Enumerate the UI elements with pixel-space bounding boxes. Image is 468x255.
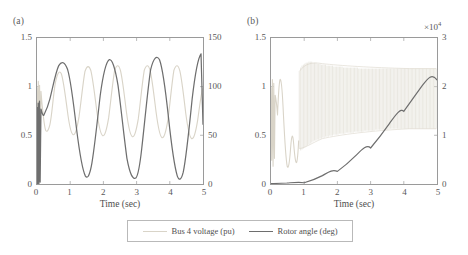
panel-b-ytick-left-0.5: 0.5 [234,131,266,140]
panel-b-xtick-2: 2 [325,188,349,197]
panel-a-ytick-right-150: 150 [208,33,236,42]
panel-a-ytick-left-1.5: 1.5 [0,33,32,42]
exponent-base: ×10 [424,22,438,32]
legend-label-bus-voltage: Bus 4 voltage (pu) [172,227,235,236]
legend-line-rotor-angle [249,231,273,232]
panel-b-ytick-left-1: 1 [234,82,266,91]
panel-b-curves [271,38,437,184]
panel-a-xtick-0: 0 [24,188,48,197]
panel-b-xtick-5: 5 [426,188,450,197]
legend-label-rotor-angle: Rotor angle (deg) [278,227,338,236]
panel-a-xtick-3: 3 [125,188,149,197]
panel-b-ytick-right-1: 1 [442,131,468,140]
panel-b-right-axis-exponent: ×104 [424,20,441,32]
panel-a-ytick-right-100: 100 [208,82,236,91]
panel-a-curves [37,38,203,184]
legend-line-bus-voltage [143,231,167,232]
panel-a-tag: (a) [13,16,24,26]
panel-b-xtick-4: 4 [392,188,416,197]
panel-a-xtick-1: 1 [58,188,82,197]
figure-root: (a) 1.5 1 0.5 0 150 100 50 0 [0,0,468,255]
panel-b: (b) ×104 1.5 1 0.5 0 3 2 1 0 [234,0,468,210]
panel-b-tag: (b) [247,16,259,26]
panel-a-xlabel: Time (sec) [60,199,180,209]
panel-b-xtick-1: 1 [292,188,316,197]
panel-b-plot-area [270,37,438,185]
legend-entry-rotor-angle: Rotor angle (deg) [249,227,338,236]
legend: Bus 4 voltage (pu) Rotor angle (deg) [127,220,353,242]
panel-a-xtick-2: 2 [91,188,115,197]
panel-a-ytick-right-50: 50 [208,131,236,140]
panel-a-xtick-4: 4 [158,188,182,197]
panel-a: (a) 1.5 1 0.5 0 150 100 50 0 [0,0,234,210]
panel-b-xtick-0: 0 [258,188,282,197]
panel-a-ytick-left-0.5: 0.5 [0,131,32,140]
panel-b-ytick-left-1.5: 1.5 [234,33,266,42]
panel-b-xlabel: Time (sec) [294,199,414,209]
panel-a-ytick-left-1: 1 [0,82,32,91]
panel-b-ytick-right-2: 2 [442,82,468,91]
panel-a-xtick-5: 5 [192,188,216,197]
panel-b-xtick-3: 3 [359,188,383,197]
exponent-power: 4 [438,20,441,27]
legend-entry-bus-voltage: Bus 4 voltage (pu) [143,227,235,236]
panel-a-plot-area [36,37,204,185]
panel-b-ytick-right-3: 3 [442,33,468,42]
